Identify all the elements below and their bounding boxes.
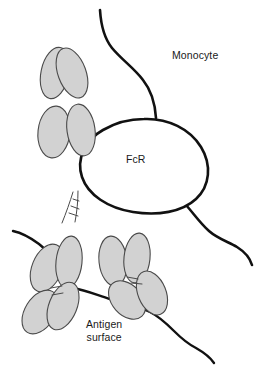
monocyte-membrane-upper-icon	[100, 10, 156, 118]
diagram-illustration	[0, 0, 262, 377]
monocyte-membrane-right-icon	[186, 205, 252, 265]
antibody-upper	[35, 44, 98, 160]
label-monocyte: Monocyte	[172, 49, 218, 62]
figure-canvas: Monocyte FcR Antigen surface	[0, 0, 262, 377]
label-antigen-surface: Antigen surface	[86, 318, 122, 343]
antibody-lower-right	[96, 232, 173, 327]
antibody-lower-left	[15, 235, 86, 341]
hinge-region-upper	[62, 191, 79, 223]
ig-domain	[53, 235, 84, 289]
fc-receptor-shape-icon	[80, 119, 208, 214]
label-fc-receptor: FcR	[126, 153, 146, 166]
